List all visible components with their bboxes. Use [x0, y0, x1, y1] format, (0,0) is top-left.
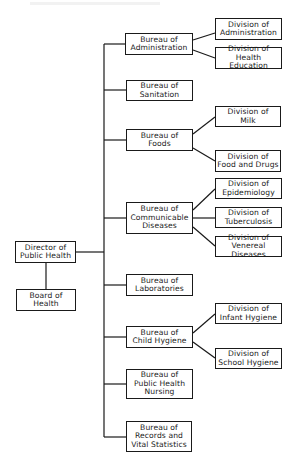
division-health-education-box: Division of Health Education [215, 47, 282, 69]
board-of-health-box: Board of Health [16, 289, 76, 311]
division-milk-box: Division of Milk [215, 106, 281, 127]
division-tuberculosis-box: Division of Tuberculosis [215, 207, 282, 228]
director-box: Director of Public Health [15, 241, 76, 263]
bureau-child-hygiene-box: Bureau of Child Hygiene [126, 326, 193, 348]
bureau-foods-box: Bureau of Foods [126, 129, 193, 151]
org-chart: Director of Public Health Board of Healt… [0, 0, 299, 464]
division-food-drugs-box: Division of Food and Drugs [215, 150, 281, 172]
division-infant-hygiene-box: Division of Infant Hygiene [215, 303, 282, 324]
bureau-administration-box: Bureau of Administration [125, 33, 193, 55]
bureau-public-health-nursing-box: Bureau of Public Health Nursing [126, 369, 193, 399]
division-venereal-diseases-box: Division of Venereal Diseases [215, 236, 282, 257]
bureau-communicable-diseases-box: Bureau of Communicable Diseases [126, 202, 193, 234]
bureau-records-vital-statistics-box: Bureau of Records and Vital Statistics [126, 421, 192, 452]
division-epidemiology-box: Division of Epidemiology [215, 178, 282, 199]
bureau-sanitation-box: Bureau of Sanitation [126, 80, 193, 101]
bureau-laboratories-box: Bureau of Laboratories [126, 274, 193, 296]
division-administration-box: Division of Administration [215, 18, 282, 40]
division-school-hygiene-box: Division of School Hygiene [215, 348, 282, 369]
